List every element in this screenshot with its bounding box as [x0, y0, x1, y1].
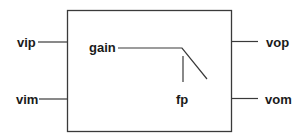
gain-rolloff-curve [118, 48, 207, 79]
output-port-vom: vom [231, 92, 292, 107]
output-port-vop: vop [231, 35, 289, 50]
amplifier-block-diagram: vip vim vop vom gain fp [0, 0, 306, 140]
diagram-svg: vip vim vop vom gain fp [0, 0, 306, 140]
amplifier-block [68, 11, 232, 132]
transfer-function-sketch: gain fp [89, 40, 207, 107]
input-port-vim: vim [16, 92, 67, 107]
vop-label: vop [266, 35, 289, 50]
input-port-vip: vip [17, 35, 67, 50]
vim-label: vim [16, 92, 38, 107]
gain-label: gain [89, 40, 116, 55]
vip-label: vip [17, 35, 36, 50]
fp-label: fp [176, 92, 188, 107]
vom-label: vom [265, 92, 292, 107]
